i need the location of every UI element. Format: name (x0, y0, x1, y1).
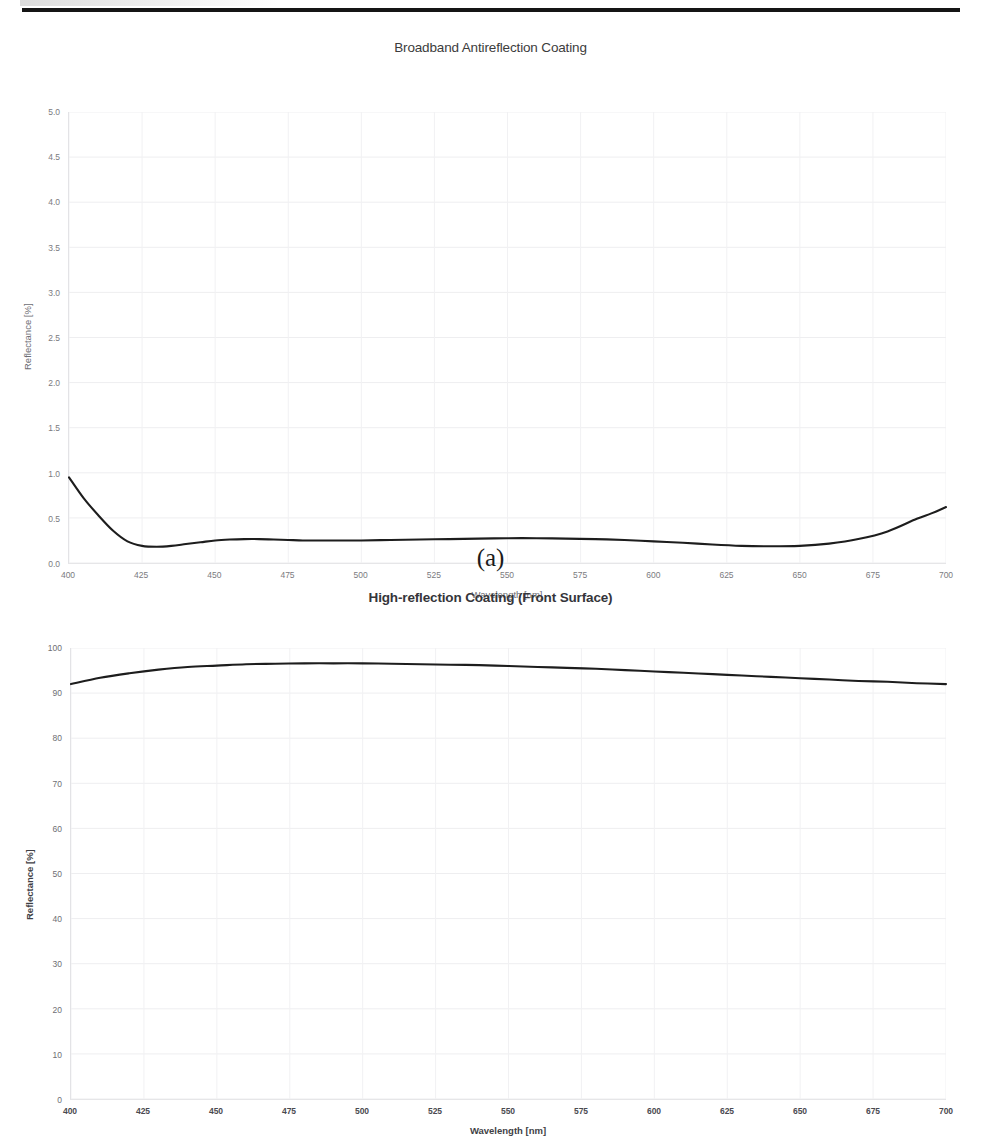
x-tick-label: 625 (720, 1106, 734, 1116)
y-tick-label: 50 (53, 869, 62, 879)
x-tick-label: 700 (939, 1106, 953, 1116)
y-tick-label: 2.5 (48, 333, 60, 343)
y-tick-label: 10 (53, 1050, 62, 1060)
y-axis-label-b: Reflectance [%] (24, 849, 35, 920)
x-tick-label: 550 (501, 1106, 515, 1116)
x-tick-label: 450 (209, 1106, 223, 1116)
y-tick-label: 5.0 (48, 107, 60, 117)
figure-b: High-reflection Coating (Front Surface) … (0, 578, 981, 1138)
x-tick-label: 600 (647, 1106, 661, 1116)
chart-title-b: High-reflection Coating (Front Surface) (0, 590, 981, 605)
y-tick-label: 90 (53, 688, 62, 698)
x-tick-label: 525 (428, 1106, 442, 1116)
y-tick-label: 3.0 (48, 288, 60, 298)
y-axis-label-a: Reflectance [%] (22, 303, 33, 370)
y-tick-label: 70 (53, 779, 62, 789)
y-tick-label: 40 (53, 914, 62, 924)
x-tick-label: 400 (63, 1106, 77, 1116)
y-axis-ticks-b: 0102030405060708090100 (8, 648, 62, 1100)
y-tick-label: 2.0 (48, 378, 60, 388)
x-tick-label: 475 (282, 1106, 296, 1116)
x-tick-label: 650 (793, 1106, 807, 1116)
reflectance-curve-b (71, 648, 946, 1099)
y-tick-label: 3.5 (48, 243, 60, 253)
subfigure-caption-a: (a) (0, 544, 981, 572)
y-tick-label: 4.0 (48, 197, 60, 207)
y-tick-label: 20 (53, 1005, 62, 1015)
chart-title-a: Broadband Antireflection Coating (0, 40, 981, 55)
y-tick-label: 0.5 (48, 514, 60, 524)
page-divider-rule (22, 8, 960, 12)
y-tick-label: 80 (53, 733, 62, 743)
plot-wrap-b: 0102030405060708090100 40042545047550052… (0, 620, 981, 1090)
y-tick-label: 30 (53, 959, 62, 969)
x-tick-label: 675 (866, 1106, 880, 1116)
y-axis-ticks-a: 0.00.51.01.52.02.53.03.54.04.55.0 (6, 112, 60, 564)
figure-a: Broadband Antireflection Coating 0.00.51… (0, 30, 981, 575)
plot-area-a (68, 112, 946, 564)
y-tick-label: 4.5 (48, 152, 60, 162)
y-tick-label: 1.0 (48, 469, 60, 479)
y-tick-label: 100 (48, 643, 62, 653)
x-axis-ticks-b: 400425450475500525550575600625650675700 (70, 1106, 946, 1122)
plot-wrap-a: 0.00.51.01.52.02.53.03.54.04.55.0 400425… (0, 70, 981, 540)
y-tick-label: 0 (57, 1095, 62, 1105)
reflectance-curve-a (69, 112, 946, 563)
scan-artifact (20, 0, 280, 6)
x-axis-label-b: Wavelength [nm] (70, 1125, 946, 1136)
plot-area-b (70, 648, 946, 1100)
y-tick-label: 1.5 (48, 423, 60, 433)
x-tick-label: 575 (574, 1106, 588, 1116)
x-tick-label: 500 (355, 1106, 369, 1116)
x-tick-label: 425 (136, 1106, 150, 1116)
y-tick-label: 60 (53, 824, 62, 834)
